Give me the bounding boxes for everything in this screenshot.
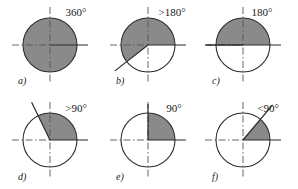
panel-c: 180°c) (205, 6, 281, 87)
shaded-region-f (243, 119, 270, 140)
panel-e: 90°e) (110, 102, 186, 183)
angle-label-f: <90° (257, 102, 279, 114)
panel-label-f: f) (212, 171, 219, 183)
panel-label-b: b) (116, 75, 125, 87)
panel-label-c: c) (212, 75, 220, 87)
angle-label-e: 90° (166, 102, 181, 114)
panel-label-e: e) (116, 171, 124, 183)
panel-label-d: d) (18, 171, 27, 183)
panel-d: >90°d) (12, 102, 88, 183)
angle-label-d: >90° (65, 102, 87, 114)
panel-b: >180°b) (110, 6, 186, 87)
panel-a: 360°a) (12, 6, 88, 87)
panel-f: <90°f) (205, 102, 281, 183)
angle-label-b: >180° (158, 6, 185, 18)
angle-label-c: 180° (252, 6, 273, 18)
angle-label-a: 360° (66, 6, 87, 18)
angle-diagram-figure: 360°a)>180°b)180°c)>90°d)90°e)<90°f) (0, 0, 298, 189)
panel-label-a: a) (18, 75, 27, 87)
diagram-canvas: 360°a)>180°b)180°c)>90°d)90°e)<90°f) (0, 0, 298, 189)
